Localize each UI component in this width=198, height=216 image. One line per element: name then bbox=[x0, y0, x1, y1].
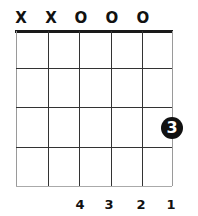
chord-diagram: X X O O O 3 4 3 2 1 bbox=[0, 0, 198, 216]
open-string-marker: O bbox=[71, 9, 91, 27]
string-3 bbox=[79, 31, 81, 186]
finger-dot: 3 bbox=[161, 117, 183, 139]
string-4 bbox=[111, 31, 113, 186]
open-string-marker: O bbox=[102, 9, 122, 27]
finger-number: 2 bbox=[133, 197, 149, 213]
string-1 bbox=[16, 31, 18, 186]
fret-line-2 bbox=[16, 107, 172, 109]
open-string-marker: O bbox=[133, 9, 153, 27]
muted-string-marker: X bbox=[11, 9, 31, 27]
finger-number: 4 bbox=[72, 197, 88, 213]
finger-number: 3 bbox=[101, 197, 117, 213]
nut bbox=[15, 30, 173, 33]
fret-line-4 bbox=[16, 186, 172, 188]
muted-string-marker: X bbox=[41, 9, 61, 27]
fret-line-1 bbox=[16, 68, 172, 70]
string-5 bbox=[142, 31, 144, 186]
finger-number: 1 bbox=[163, 197, 179, 213]
string-6 bbox=[172, 31, 174, 186]
string-2 bbox=[48, 31, 50, 186]
fret-line-3 bbox=[16, 147, 172, 149]
